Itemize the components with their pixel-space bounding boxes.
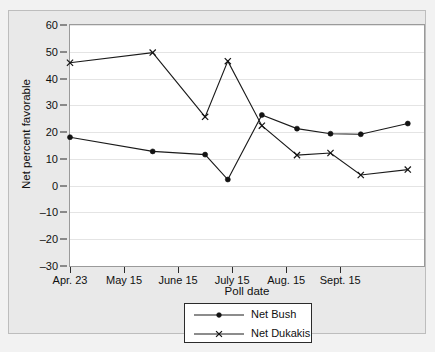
legend-item-net-dukakis: Net Dukakis bbox=[185, 324, 313, 344]
data-point-marker bbox=[203, 152, 208, 157]
x-tick-mark bbox=[232, 267, 233, 273]
y-tick-label: 60 bbox=[46, 19, 58, 31]
y-tick-mark bbox=[60, 239, 67, 240]
data-point-marker bbox=[225, 177, 230, 182]
y-tick-label: –20 bbox=[40, 233, 58, 245]
legend-label: Net Bush bbox=[251, 308, 296, 320]
plot-area bbox=[69, 24, 425, 267]
y-tick-label: 50 bbox=[46, 46, 58, 58]
y-tick-mark bbox=[60, 51, 67, 52]
data-point-marker bbox=[294, 126, 299, 131]
y-tick-label: 20 bbox=[46, 126, 58, 138]
figure-panel: 6050403020100–10–20–30 Net percent favor… bbox=[8, 10, 426, 334]
data-point-marker bbox=[225, 58, 231, 64]
data-point-marker bbox=[68, 135, 73, 140]
x-tick-mark bbox=[124, 267, 125, 273]
data-point-marker bbox=[150, 149, 155, 154]
legend: Net BushNet Dukakis bbox=[184, 303, 312, 343]
x-tick-mark bbox=[178, 267, 179, 273]
y-tick-mark bbox=[60, 105, 67, 106]
series-line bbox=[70, 53, 408, 175]
data-point-marker bbox=[202, 114, 208, 120]
y-tick-mark bbox=[60, 25, 67, 26]
y-tick-mark bbox=[60, 78, 67, 79]
y-tick-label: –10 bbox=[40, 206, 58, 218]
legend-x-marker-icon bbox=[193, 324, 245, 344]
data-point-marker bbox=[217, 313, 222, 318]
legend-circle-marker-icon bbox=[193, 305, 245, 325]
x-tick-mark bbox=[70, 267, 71, 273]
data-point-marker bbox=[405, 121, 410, 126]
y-tick-label: 40 bbox=[46, 73, 58, 85]
y-axis-title: Net percent favorable bbox=[20, 34, 32, 234]
data-point-marker bbox=[259, 123, 265, 129]
y-tick-label: 30 bbox=[46, 99, 58, 111]
legend-label: Net Dukakis bbox=[251, 327, 310, 339]
y-tick-mark bbox=[60, 212, 67, 213]
y-tick-label: –30 bbox=[40, 260, 58, 272]
series-line bbox=[70, 115, 408, 180]
y-tick-mark bbox=[60, 158, 67, 159]
data-point-marker bbox=[358, 132, 363, 137]
y-tick-label: 10 bbox=[46, 153, 58, 165]
data-point-marker bbox=[259, 112, 264, 117]
y-tick-mark bbox=[60, 185, 67, 186]
y-tick-mark bbox=[60, 132, 67, 133]
series-layer bbox=[70, 25, 424, 266]
y-axis: 6050403020100–10–20–30 bbox=[9, 24, 69, 267]
data-point-marker bbox=[328, 131, 333, 136]
x-axis-title: Poll date bbox=[69, 285, 425, 297]
legend-item-net-bush: Net Bush bbox=[185, 305, 313, 325]
y-tick-mark bbox=[60, 266, 67, 267]
x-tick-mark bbox=[286, 267, 287, 273]
y-tick-label: 0 bbox=[52, 180, 58, 192]
x-tick-mark bbox=[340, 267, 341, 273]
